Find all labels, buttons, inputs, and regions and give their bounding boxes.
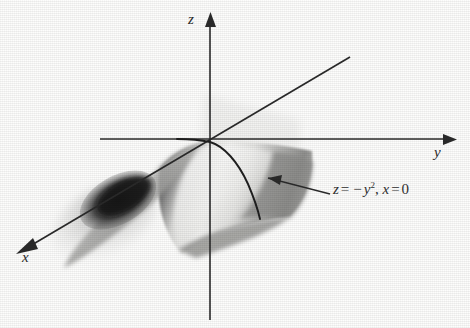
surface-upper-haze (200, 95, 300, 150)
equation-second-rhs: 0 (402, 181, 410, 197)
equation-lhs: z (333, 181, 339, 197)
figure-canvas (0, 0, 470, 328)
parabolic-cylinder-surface (39, 95, 313, 278)
x-axis-label: x (22, 250, 29, 265)
second-equals-sign: = (389, 181, 401, 197)
z-axis-arrowhead (205, 12, 216, 27)
equation-separator: , (375, 181, 379, 197)
surface-equation-label: z=−y2, x=0 (333, 181, 409, 198)
math-figure-parabolic-cylinder: z y x z=−y2, x=0 (0, 0, 470, 328)
z-axis-label: z (188, 12, 194, 27)
minus-sign: − (351, 181, 363, 197)
y-axis-label: y (434, 145, 441, 160)
equals-sign: = (339, 181, 351, 197)
y-axis-arrowhead (443, 134, 457, 145)
